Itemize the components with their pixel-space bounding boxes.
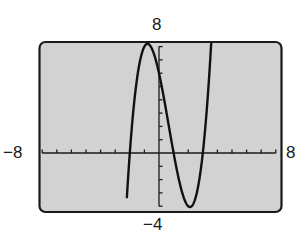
calculator-screen [0,0,306,239]
